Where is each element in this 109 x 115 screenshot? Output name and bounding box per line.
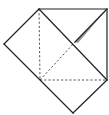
fold-diagram-svg [0, 0, 109, 115]
fold-diagram [0, 0, 109, 115]
background [0, 0, 109, 115]
